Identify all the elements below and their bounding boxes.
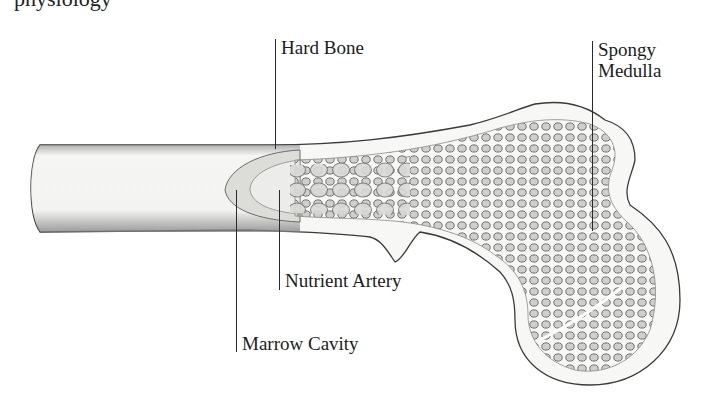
label-spongy-medulla-line1: Spongy	[598, 39, 656, 61]
label-nutrient-artery: Nutrient Artery	[285, 270, 402, 292]
label-spongy-medulla-line2: Medulla	[598, 60, 661, 82]
label-marrow-cavity: Marrow Cavity	[242, 333, 359, 355]
marrow-cavity-leader-line	[236, 190, 237, 352]
spongy-medulla-leader-line	[592, 41, 593, 231]
nutrient-artery-leader-line	[279, 190, 280, 290]
label-hard-bone: Hard Bone	[281, 37, 364, 59]
hard-bone-leader-line	[275, 39, 276, 149]
